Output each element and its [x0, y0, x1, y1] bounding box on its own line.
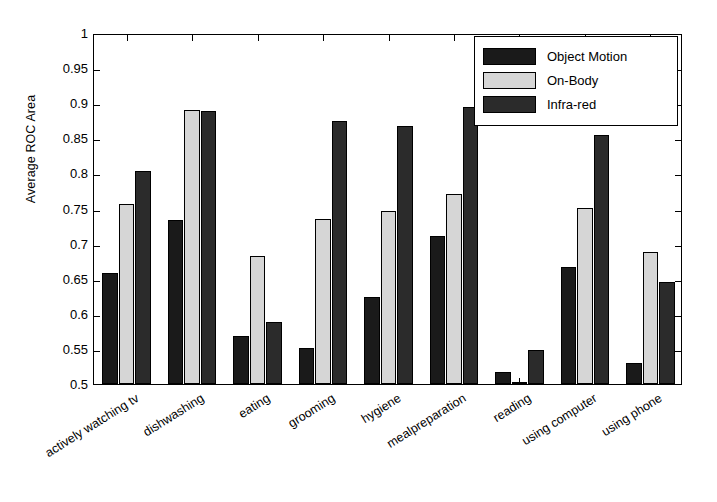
y-axis-tick-mark [675, 175, 681, 176]
x-axis-tick-label: reading [357, 391, 534, 502]
y-axis-tick-mark [94, 175, 100, 176]
x-axis-tick-mark [389, 35, 390, 41]
x-axis-tick-label: eating [95, 391, 272, 502]
bar [315, 219, 331, 384]
y-axis-tick-label: 0.5 [44, 378, 88, 391]
x-axis-tick-label: using computer [422, 391, 599, 502]
y-axis-tick-label: 0.6 [44, 308, 88, 321]
y-axis-tick-label: 0.55 [44, 343, 88, 356]
bar [626, 363, 642, 384]
y-axis-tick-mark [94, 211, 100, 212]
y-axis-tick-mark [94, 105, 100, 106]
bar [512, 382, 528, 384]
x-axis-tick-label: mealpreparation [291, 391, 468, 502]
x-axis-tick-label: using phone [488, 391, 665, 502]
bar [495, 372, 511, 384]
y-axis-tick-mark [675, 140, 681, 141]
y-axis-tick-label: 0.95 [44, 62, 88, 75]
y-axis-tick-mark [675, 281, 681, 282]
y-axis-tick-label: 0.65 [44, 273, 88, 286]
bar [561, 267, 577, 384]
bar [446, 194, 462, 384]
y-axis-tick-mark [675, 246, 681, 247]
bar [577, 208, 593, 384]
bar [430, 236, 446, 384]
bar [201, 111, 217, 384]
y-axis-tick-label: 0.7 [44, 238, 88, 251]
x-axis-tick-mark [192, 35, 193, 41]
legend-item: Infra-red [483, 92, 669, 116]
y-axis-tick-mark [675, 211, 681, 212]
x-axis-tick-mark [258, 35, 259, 41]
bar [299, 348, 315, 385]
y-axis-tick-label: 1 [44, 27, 88, 40]
y-axis-tick-label: 0.85 [44, 132, 88, 145]
x-axis-tick-mark [127, 35, 128, 41]
bar [364, 297, 380, 384]
y-axis-tick-mark [94, 316, 100, 317]
bar [332, 121, 348, 384]
y-axis-tick-mark [675, 316, 681, 317]
x-axis-tick-label: hygiene [226, 391, 403, 502]
y-axis-tick-mark [675, 351, 681, 352]
y-axis-tick-mark [94, 70, 100, 71]
bar [594, 135, 610, 384]
y-axis-tick-label: 0.8 [44, 167, 88, 180]
x-axis-tick-mark [454, 35, 455, 41]
legend-item: Object Motion [483, 44, 669, 68]
legend-label-object-motion: Object Motion [547, 50, 627, 63]
bar [381, 211, 397, 384]
x-axis-tick-label: grooming [160, 391, 337, 502]
legend-label-on-body: On-Body [547, 74, 598, 87]
legend-swatch-object-motion [483, 48, 536, 65]
bar [659, 282, 675, 384]
chart-legend: Object Motion On-Body Infra-red [474, 36, 678, 126]
y-axis-tick-label: 0.75 [44, 203, 88, 216]
bar [168, 220, 184, 384]
x-axis-tick-mark [323, 35, 324, 41]
bar [397, 126, 413, 384]
bar [250, 256, 266, 384]
legend-item: On-Body [483, 68, 669, 92]
bar [463, 107, 479, 384]
legend-swatch-on-body [483, 72, 536, 89]
y-axis-tick-labels: 0.50.550.60.650.70.750.80.850.90.951 [38, 0, 88, 502]
bar [135, 171, 151, 384]
bar [119, 204, 135, 384]
y-axis-tick-label: 0.9 [44, 97, 88, 110]
y-axis-tick-mark [94, 351, 100, 352]
bar [102, 273, 118, 384]
bar [233, 336, 249, 384]
bar [643, 252, 659, 384]
bar [266, 322, 282, 384]
legend-label-infra-red: Infra-red [547, 98, 596, 111]
y-axis-tick-mark [94, 140, 100, 141]
y-axis-tick-mark [94, 281, 100, 282]
bar [528, 350, 544, 384]
bar [184, 110, 200, 384]
y-axis-tick-mark [94, 246, 100, 247]
bar-chart-figure: Average ROC Area 0.50.550.60.650.70.750.… [0, 0, 717, 502]
legend-swatch-infra-red [483, 96, 536, 113]
